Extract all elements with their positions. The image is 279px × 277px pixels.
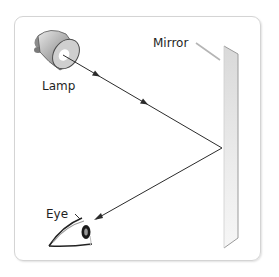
arrow-head-icon (92, 71, 100, 77)
arrow-head-icon (140, 99, 148, 105)
mirror-icon (224, 46, 238, 248)
incident-ray (63, 55, 222, 148)
eye-label: Eye (46, 208, 68, 220)
arrow-head-icon (94, 213, 103, 220)
lamp-label: Lamp (42, 80, 75, 92)
reflected-ray (94, 148, 222, 220)
reflection-diagram (0, 0, 279, 277)
lamp-icon (31, 29, 85, 74)
mirror-leader-line (196, 43, 220, 60)
mirror-label: Mirror (153, 37, 188, 49)
